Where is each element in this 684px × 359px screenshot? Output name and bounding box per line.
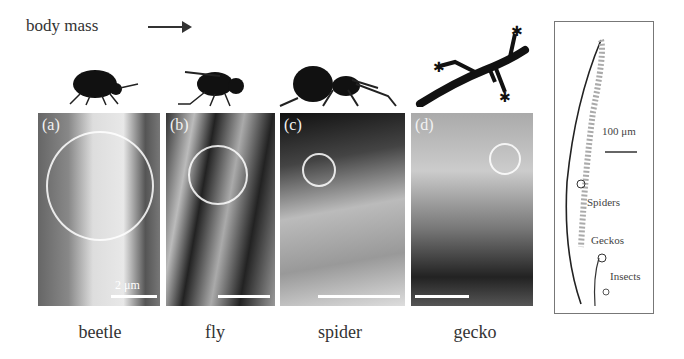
panel-spider: (c) — [280, 113, 405, 306]
panel-label: (a) — [42, 116, 60, 134]
gecko-silhouette-icon: ✱ ✱ ✱ — [415, 22, 535, 107]
caption-gecko: gecko — [415, 322, 535, 343]
panel-gecko: (d) — [411, 113, 533, 306]
caption-beetle: beetle — [40, 322, 160, 343]
panel-fly: (b) — [166, 113, 275, 306]
right-arrow-icon — [148, 26, 186, 28]
scale-bar — [415, 295, 469, 298]
panel-label: (d) — [415, 116, 434, 134]
svg-text:✱: ✱ — [499, 89, 511, 105]
panel-label: (b) — [170, 116, 189, 134]
scale-bar — [111, 295, 157, 298]
hair-comparison-inset: 100 μm Spiders Geckos Insects — [554, 21, 654, 314]
scale-label: 100 μm — [602, 125, 636, 137]
panel-beetle: (a) 2 μm — [38, 113, 160, 306]
beetle-silhouette-icon — [60, 62, 150, 107]
svg-text:✱: ✱ — [511, 23, 523, 39]
fly-silhouette-icon — [170, 62, 255, 107]
label-geckos: Geckos — [591, 234, 624, 246]
scale-text: 2 μm — [115, 278, 140, 293]
label-spiders: Spiders — [587, 196, 620, 208]
scale-bar — [218, 295, 270, 298]
caption-spider: spider — [280, 322, 400, 343]
body-mass-label: body mass — [26, 16, 98, 36]
label-insects: Insects — [610, 270, 641, 282]
panel-label: (c) — [284, 116, 302, 134]
scale-bar — [318, 295, 400, 298]
svg-text:✱: ✱ — [433, 59, 445, 75]
caption-fly: fly — [155, 322, 275, 343]
spider-silhouette-icon — [278, 60, 408, 108]
